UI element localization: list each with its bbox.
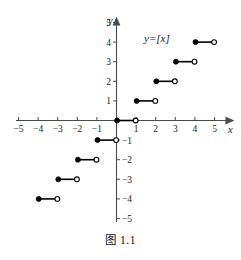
floor-function-plot: −5−4−3−2−112345 54321−1−2−3−4−5 x y y=[x… [0,0,241,235]
open-endpoint-dot [75,177,80,182]
open-endpoint-dot [173,79,178,84]
y-tick-label: 3 [106,57,111,67]
open-endpoint-dot [153,99,158,104]
x-axis-tick-labels: −5−4−3−2−112345 [13,124,217,134]
closed-endpoint-dot [154,79,159,84]
closed-endpoint-dot [95,138,100,143]
x-tick-label: 2 [153,124,158,134]
x-tick-label: −5 [13,124,23,134]
closed-endpoint-dot [75,157,80,162]
x-tick-label: 3 [173,124,178,134]
closed-endpoint-dot [173,59,178,64]
y-tick-label: −5 [122,214,132,224]
y-tick-label: −4 [122,194,132,204]
closed-endpoint-dot [36,196,41,201]
y-tick-label: 1 [106,96,111,106]
y-tick-label: −2 [122,155,132,165]
x-tick-label: 1 [134,124,139,134]
function-label: y=[x] [143,32,170,44]
y-tick-label: −3 [122,175,132,185]
open-endpoint-dot [55,197,60,202]
closed-endpoint-dot [134,98,139,103]
y-tick-label: 4 [106,38,111,48]
y-axis-label: y [107,15,113,26]
closed-endpoint-dot [115,118,120,123]
x-tick-label: −4 [33,124,43,134]
y-tick-label: 2 [106,77,111,87]
open-endpoint-dot [192,59,197,64]
open-endpoint-dot [114,138,119,143]
x-axis-label: x [227,124,233,135]
x-axis-arrow [226,117,233,123]
x-tick-label: −3 [53,124,63,134]
x-tick-label: −1 [92,124,102,134]
x-tick-label: −2 [72,124,82,134]
open-endpoint-dot [94,157,99,162]
closed-endpoint-dot [56,177,61,182]
closed-endpoint-dot [193,40,198,45]
y-axis-arrow [113,18,119,25]
figure-container: −5−4−3−2−112345 54321−1−2−3−4−5 x y y=[x… [0,0,241,260]
y-tick-label: −1 [122,136,132,146]
x-tick-label: 4 [193,124,198,134]
open-endpoint-dot [212,40,217,45]
x-tick-label: 5 [212,124,217,134]
figure-caption: 图 1.1 [0,231,241,247]
open-endpoint-dot [133,118,138,123]
